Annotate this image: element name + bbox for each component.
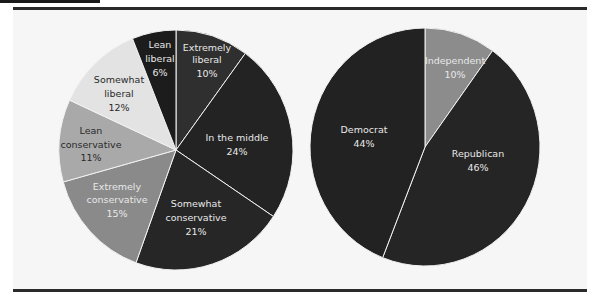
slice-value: 11%: [80, 152, 101, 163]
slice-label: conservative: [86, 194, 147, 205]
slice-value: 46%: [467, 162, 488, 173]
slice-value: 10%: [196, 68, 217, 79]
slice-label: liberal: [145, 53, 175, 64]
slice-label: Lean: [149, 39, 172, 50]
slice-value: 15%: [106, 208, 127, 219]
slice-label: Lean: [80, 125, 103, 136]
slice-value: 6%: [152, 67, 167, 78]
slice-label: Extremely: [183, 42, 232, 53]
slice-label: Republican: [452, 148, 504, 159]
slice-label: liberal: [192, 54, 222, 65]
slice-label: In the middle: [206, 132, 269, 143]
slice-label: Independent: [425, 55, 485, 66]
slice-label: liberal: [104, 88, 134, 99]
slice-label: Somewhat: [171, 198, 222, 209]
slice-value: 21%: [185, 226, 206, 237]
slice-label: Extremely: [93, 181, 142, 192]
slice-value: 44%: [353, 138, 374, 149]
ideology-pie: [59, 30, 293, 270]
slice-value: 24%: [226, 146, 247, 157]
slice-value: 12%: [108, 102, 129, 113]
slice-label: Democrat: [341, 124, 388, 135]
slice-label: Somewhat: [94, 74, 145, 85]
charts-svg: Extremely liberal 10% In the middle 24% …: [0, 0, 601, 304]
slice-label: conservative: [165, 212, 226, 223]
slice-value: 10%: [444, 69, 465, 80]
slice-label: conservative: [60, 139, 121, 150]
